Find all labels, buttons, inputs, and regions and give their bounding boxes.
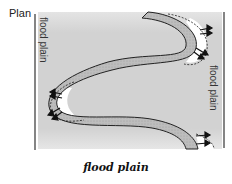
diagram-caption: flood plain — [0, 161, 232, 174]
meander-diagram: flood plain flood plain — [0, 0, 232, 184]
right-flood-plain-label: flood plain — [208, 65, 219, 111]
left-flood-plain-label: flood plain — [38, 17, 49, 63]
